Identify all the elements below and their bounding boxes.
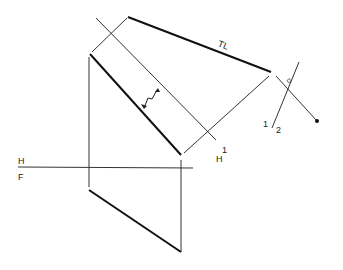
fold-label-f: F — [18, 172, 24, 182]
fold-line-h1 — [96, 18, 216, 140]
fold-line-hf — [18, 167, 193, 168]
point-view-projector — [276, 76, 317, 121]
true-length-line — [128, 17, 271, 72]
distance-dimension — [141, 88, 160, 109]
front-view-line — [89, 190, 181, 252]
fold-label-h: H — [18, 156, 25, 166]
true-length-label: TL — [217, 39, 230, 52]
projector-aux-2 — [184, 76, 269, 153]
point-view-dot — [315, 119, 319, 123]
fold-label-12-2: 2 — [276, 125, 281, 135]
diagram-canvas: H F H 1 TL 1 2 — [0, 0, 343, 270]
fold-label-12-1: 1 — [263, 119, 268, 129]
projector-aux-1 — [92, 18, 127, 52]
fold-label-h1-h: H — [216, 154, 223, 164]
top-view-line — [90, 54, 181, 155]
fold-line-12 — [272, 62, 299, 128]
fold-label-h1-1: 1 — [222, 145, 227, 155]
